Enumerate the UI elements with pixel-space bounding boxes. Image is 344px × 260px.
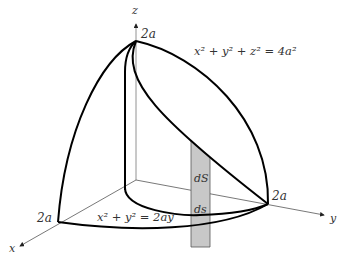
z-tick-label: 2a bbox=[140, 27, 156, 41]
diagram-canvas: z 2a x² + y² + z² = 4a² 2a x² + y² = 2ay… bbox=[0, 0, 344, 260]
dS-label: dS bbox=[194, 172, 209, 185]
y-axis-label: y bbox=[329, 212, 337, 225]
z-axis-label: z bbox=[131, 4, 138, 17]
x-axis-label: x bbox=[9, 242, 16, 255]
ds-label: ds bbox=[194, 203, 207, 216]
y-tick-label: 2a bbox=[271, 189, 287, 203]
cylinder-equation: x² + y² = 2ay bbox=[97, 210, 174, 224]
cylinder-edge bbox=[125, 41, 136, 190]
x-tick-label: 2a bbox=[36, 211, 52, 225]
sphere-equation: x² + y² + z² = 4a² bbox=[194, 44, 297, 58]
